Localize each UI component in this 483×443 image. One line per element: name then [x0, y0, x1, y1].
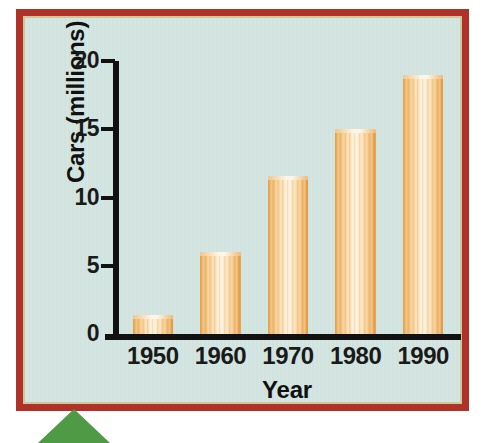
bar-1950 — [133, 315, 174, 334]
bar-cap — [335, 129, 376, 133]
bar-1990 — [403, 75, 444, 334]
x-axis-tick-label-1990: 1990 — [389, 344, 457, 368]
x-axis-tick-label-1960: 1960 — [187, 344, 255, 368]
bar-cap — [403, 75, 444, 79]
x-axis-title: Year — [113, 376, 461, 404]
x-axis-tick-label-1980: 1980 — [322, 344, 390, 368]
plot-area: Cars (millions) 05101520 195019601970198… — [23, 16, 462, 404]
bar-cap — [200, 252, 241, 256]
bar-1970 — [268, 176, 309, 334]
bars-layer — [23, 16, 462, 334]
x-axis-tick-labels: 19501960197019801990 — [23, 344, 462, 378]
bar-cap — [133, 315, 174, 319]
green-triangle-pointer-icon — [38, 409, 110, 443]
x-axis-tick-label-1970: 1970 — [254, 344, 322, 368]
bar-1980 — [335, 129, 376, 334]
x-axis-tick-label-1950: 1950 — [119, 344, 187, 368]
bar-cap — [268, 176, 309, 180]
chart-figure-panel: Cars (millions) 05101520 195019601970198… — [16, 9, 469, 411]
x-axis-line — [105, 334, 461, 340]
bar-1960 — [200, 252, 241, 334]
